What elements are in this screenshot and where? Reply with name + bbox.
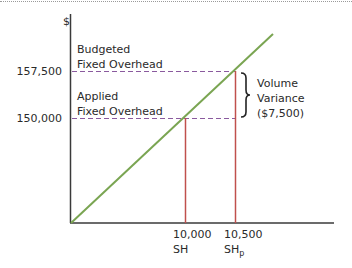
shp-subscript: p [239, 249, 244, 258]
y-tick-150000: 150,000 [0, 111, 62, 126]
variance-label-line3: ($7,500) [257, 106, 304, 121]
applied-label-line2: Fixed Overhead [77, 104, 163, 119]
x-tick-sh-label: SH [173, 242, 188, 257]
variance-label-line2: Variance [257, 91, 305, 106]
x-tick-shp-label: SHp [224, 242, 244, 261]
variance-label-line1: Volume [257, 76, 298, 91]
applied-label-line1: Applied [77, 89, 118, 104]
budgeted-label-line1: Budgeted [77, 42, 130, 57]
curly-brace [241, 73, 250, 117]
y-axis-label: $ [63, 14, 70, 29]
budgeted-label-line2: Fixed Overhead [77, 57, 163, 72]
shp-main: SH [224, 243, 239, 256]
y-tick-157500: 157,500 [0, 64, 62, 79]
x-tick-10000: 10,000 [173, 227, 212, 242]
x-tick-10500: 10,500 [224, 227, 263, 242]
